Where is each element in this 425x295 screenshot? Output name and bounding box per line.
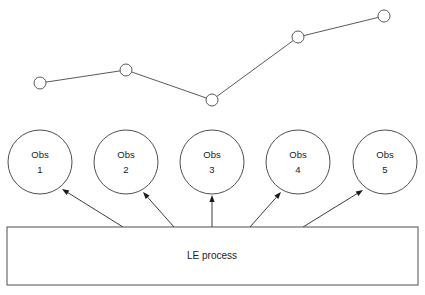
observation-label-bottom-1: 1 xyxy=(37,164,42,175)
series-node-1[interactable] xyxy=(34,77,46,89)
arrow-obs-4 xyxy=(250,192,281,227)
series-node-group xyxy=(34,10,390,106)
observation-circle-4[interactable] xyxy=(266,130,330,194)
series-node-3[interactable] xyxy=(206,94,218,106)
series-node-5[interactable] xyxy=(378,10,390,22)
observation-node-5[interactable]: Obs5 xyxy=(353,130,417,194)
series-polyline-group xyxy=(40,16,384,100)
series-polyline xyxy=(40,16,384,100)
arrow-shaft-4 xyxy=(250,197,276,227)
observation-circle-5[interactable] xyxy=(353,130,417,194)
observation-label-top-2: Obs xyxy=(117,149,135,160)
observation-label-bottom-4: 4 xyxy=(295,164,300,175)
series-node-4[interactable] xyxy=(292,31,304,43)
observation-label-top-3: Obs xyxy=(203,149,221,160)
observation-label-bottom-2: 2 xyxy=(123,164,128,175)
observation-circle-3[interactable] xyxy=(180,130,244,194)
arrow-obs-2 xyxy=(143,192,174,227)
arrow-obs-1 xyxy=(62,189,123,227)
diagram-canvas: Obs1Obs2Obs3Obs4Obs5 LE process xyxy=(0,0,425,295)
arrow-shaft-1 xyxy=(68,193,123,227)
arrow-group xyxy=(62,189,363,227)
diagram-svg: Obs1Obs2Obs3Obs4Obs5 LE process xyxy=(0,0,425,295)
observation-node-3[interactable]: Obs3 xyxy=(180,130,244,194)
arrow-obs-3 xyxy=(209,195,214,227)
arrow-obs-5 xyxy=(303,190,363,227)
observation-node-4[interactable]: Obs4 xyxy=(266,130,330,194)
observation-group: Obs1Obs2Obs3Obs4Obs5 xyxy=(8,130,417,194)
arrow-head-icon-1 xyxy=(62,189,69,195)
observation-label-top-4: Obs xyxy=(289,149,307,160)
arrow-shaft-5 xyxy=(303,194,357,227)
observation-label-bottom-5: 5 xyxy=(382,164,387,175)
arrow-head-icon-3 xyxy=(209,195,214,202)
arrow-head-icon-5 xyxy=(356,190,363,196)
observation-node-2[interactable]: Obs2 xyxy=(94,130,158,194)
observation-label-top-1: Obs xyxy=(31,149,49,160)
observation-label-bottom-3: 3 xyxy=(209,164,214,175)
series-node-2[interactable] xyxy=(120,64,132,76)
observation-node-1[interactable]: Obs1 xyxy=(8,130,72,194)
process-box-group[interactable]: LE process xyxy=(7,227,418,285)
observation-circle-2[interactable] xyxy=(94,130,158,194)
arrow-shaft-2 xyxy=(148,197,174,227)
process-box-label: LE process xyxy=(187,250,237,261)
observation-circle-1[interactable] xyxy=(8,130,72,194)
observation-label-top-5: Obs xyxy=(376,149,394,160)
